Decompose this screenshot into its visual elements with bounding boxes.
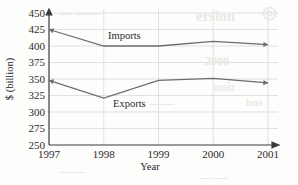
y-tick-label: 400 bbox=[29, 40, 46, 52]
y-tick-labels: 450425400375350325300275250 bbox=[29, 7, 46, 151]
series-label-imports: Imports bbox=[108, 30, 141, 41]
line-chart-figure: ◎ersion— ——2000noiz——bns——— — 4504254003… bbox=[0, 0, 298, 185]
horizontal-gridlines bbox=[49, 13, 278, 129]
y-tick-label: 450 bbox=[29, 7, 46, 19]
series-label-exports: Exports bbox=[113, 98, 146, 109]
chart-canvas: 450425400375350325300275250 199719981999… bbox=[0, 0, 298, 185]
series-end-arrowhead bbox=[263, 80, 268, 85]
x-tick-label: 2001 bbox=[257, 148, 279, 160]
y-tick-label: 275 bbox=[29, 122, 46, 134]
y-axis-arrowhead bbox=[46, 9, 52, 15]
x-axis-arrowhead bbox=[272, 142, 279, 148]
x-tick-label: 2000 bbox=[202, 148, 225, 160]
x-tick-labels: 19971998199920002001 bbox=[38, 148, 279, 160]
y-tick-label: 350 bbox=[29, 73, 46, 85]
y-tick-label: 325 bbox=[29, 89, 46, 101]
y-tick-label: 300 bbox=[29, 106, 46, 118]
x-tick-label: 1999 bbox=[148, 148, 171, 160]
y-axis-title: $ (billion) bbox=[4, 57, 16, 100]
x-axis-title: Year bbox=[140, 161, 160, 172]
y-tick-label: 375 bbox=[29, 56, 46, 68]
y-tick-label: 425 bbox=[29, 23, 46, 35]
x-tick-label: 1997 bbox=[38, 148, 61, 160]
axis-lines bbox=[46, 9, 279, 148]
x-tick-label: 1998 bbox=[93, 148, 116, 160]
